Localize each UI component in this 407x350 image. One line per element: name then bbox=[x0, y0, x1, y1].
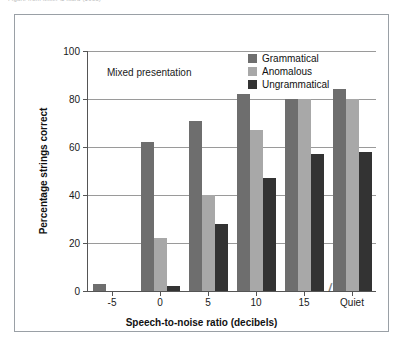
legend-swatch-icon bbox=[248, 54, 257, 63]
x-tick-label: 10 bbox=[232, 297, 280, 308]
bar-group: -5 bbox=[88, 51, 136, 291]
x-tick-label: 0 bbox=[136, 297, 184, 308]
bar bbox=[263, 178, 276, 291]
bar bbox=[298, 99, 311, 291]
legend-label: Grammatical bbox=[262, 53, 319, 64]
x-axis-label: Speech-to-noise ratio (decibels) bbox=[15, 317, 388, 328]
legend-swatch-icon bbox=[248, 67, 257, 76]
x-tick-mark bbox=[352, 291, 353, 296]
legend-item: Anomalous bbox=[248, 66, 329, 77]
figure-frame: Percentage strings correct 020406080100 … bbox=[14, 14, 389, 332]
bar bbox=[202, 195, 215, 291]
bar bbox=[285, 99, 298, 291]
y-tick-label: 80 bbox=[69, 94, 80, 105]
legend-item: Ungrammatical bbox=[248, 79, 329, 90]
x-tick-mark bbox=[304, 291, 305, 296]
y-tick-mark bbox=[83, 291, 88, 292]
caption-fragment: Figure from Miller & Isard (1963) bbox=[8, 0, 101, 4]
bar-group: Quiet bbox=[328, 51, 376, 291]
bar bbox=[154, 238, 167, 291]
y-axis-label: Percentage strings correct bbox=[38, 108, 49, 235]
x-tick-label: Quiet bbox=[328, 297, 376, 308]
bar bbox=[141, 142, 154, 291]
legend-swatch-icon bbox=[248, 80, 257, 89]
bar bbox=[250, 130, 263, 291]
bar bbox=[93, 284, 106, 291]
x-tick-label: -5 bbox=[88, 297, 136, 308]
y-tick-label: 100 bbox=[63, 46, 80, 57]
bar bbox=[346, 99, 359, 291]
bar bbox=[215, 224, 228, 291]
x-tick-mark bbox=[160, 291, 161, 296]
legend-label: Anomalous bbox=[262, 66, 312, 77]
bar bbox=[359, 152, 372, 291]
x-tick-mark bbox=[112, 291, 113, 296]
x-tick-mark bbox=[208, 291, 209, 296]
y-tick-label: 40 bbox=[69, 190, 80, 201]
y-tick-label: 20 bbox=[69, 238, 80, 249]
x-tick-label: 5 bbox=[184, 297, 232, 308]
bar bbox=[167, 286, 180, 291]
y-tick-label: 60 bbox=[69, 142, 80, 153]
bar bbox=[237, 94, 250, 291]
x-tick-mark bbox=[256, 291, 257, 296]
x-tick-label: 15 bbox=[280, 297, 328, 308]
legend-item: Grammatical bbox=[248, 53, 329, 64]
bar bbox=[311, 154, 324, 291]
bar bbox=[333, 89, 346, 291]
plot-annotation: Mixed presentation bbox=[107, 67, 192, 78]
bar bbox=[189, 121, 202, 291]
legend-label: Ungrammatical bbox=[262, 79, 329, 90]
bar-group: 0 bbox=[136, 51, 184, 291]
y-tick-label: 0 bbox=[74, 286, 80, 297]
plot-area: 020406080100 -5051015Quiet ⁄⁄ bbox=[87, 51, 376, 292]
bar-group: 5 bbox=[184, 51, 232, 291]
legend: GrammaticalAnomalousUngrammatical bbox=[248, 53, 329, 90]
